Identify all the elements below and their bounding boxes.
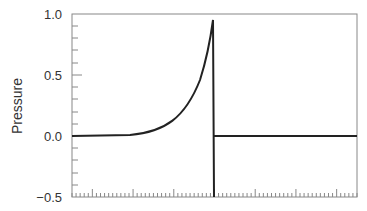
ytick-05: 0.5 <box>44 68 62 83</box>
ytick-0: 0.0 <box>44 129 62 144</box>
y-minor-ticks <box>72 26 82 185</box>
y-axis-label: Pressure <box>9 78 25 134</box>
ytick-neg05: −0.5 <box>36 190 62 205</box>
pressure-line <box>72 20 357 197</box>
ytick-1: 1.0 <box>44 7 62 22</box>
chart: 1.0 0.5 0.0 −0.5 Pressure <box>0 0 367 211</box>
